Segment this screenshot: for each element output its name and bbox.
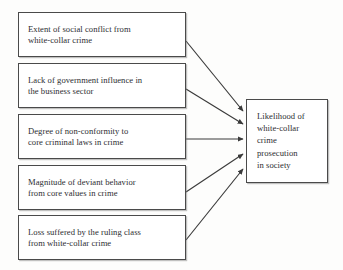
factor-box-government-influence[interactable]: Lack of government influence in the busi… [18,63,186,108]
arrow-social-conflict-to-outcome [186,41,243,111]
diagram-canvas: Extent of social conflict from white-col… [0,0,343,270]
outcome-box-prosecution-likelihood[interactable]: Likelihood of white-collar crime prosecu… [246,99,328,183]
arrow-deviant-behavior-to-outcome [186,154,243,192]
factor-label-social-conflict: Extent of social conflict from white-col… [28,23,180,46]
factor-box-non-conformity[interactable]: Degree of non-conformity to core crimina… [18,114,186,159]
factor-label-ruling-class-loss: Loss suffered by the ruling class from w… [28,226,180,249]
outcome-label-prosecution-likelihood: Likelihood of white-collar crime prosecu… [257,110,321,171]
factor-box-deviant-behavior[interactable]: Magnitude of deviant behavior from core … [18,165,186,210]
factor-label-government-influence: Lack of government influence in the busi… [28,74,180,97]
factor-box-ruling-class-loss[interactable]: Loss suffered by the ruling class from w… [18,215,186,260]
arrow-government-influence-to-outcome [186,89,243,124]
factor-box-social-conflict[interactable]: Extent of social conflict from white-col… [18,12,186,57]
factor-label-deviant-behavior: Magnitude of deviant behavior from core … [28,176,180,199]
arrow-ruling-class-loss-to-outcome [186,169,243,240]
factor-label-non-conformity: Degree of non-conformity to core crimina… [28,125,180,148]
